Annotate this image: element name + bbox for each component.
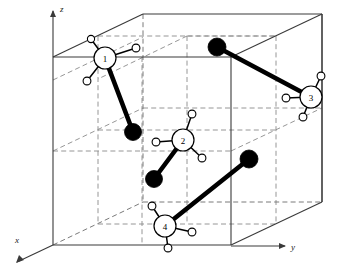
molecule-3-heavy-atom[interactable] bbox=[208, 38, 226, 56]
cell-edge-3 bbox=[231, 14, 322, 57]
molecule-4-label: 4 bbox=[163, 222, 168, 232]
molecule-2-hydrogen-1[interactable] bbox=[152, 138, 160, 146]
molecule-4-hydrogen-1[interactable] bbox=[188, 228, 196, 236]
molecule-2-label: 2 bbox=[181, 136, 186, 146]
z-axis-arrowhead bbox=[50, 10, 56, 17]
molecule-1-hydrogen-2[interactable] bbox=[83, 77, 91, 85]
y-axis-arrowhead bbox=[279, 243, 286, 249]
molecules: 1234 bbox=[83, 35, 325, 252]
x-axis-label: x bbox=[14, 235, 19, 245]
z-axis-label: z bbox=[59, 4, 64, 14]
x-axis-arrowhead bbox=[16, 255, 24, 263]
grid-line-9 bbox=[231, 108, 322, 151]
molecule-2[interactable]: 2 bbox=[146, 110, 206, 187]
molecule-3-label: 3 bbox=[309, 93, 314, 103]
molecule-3[interactable]: 3 bbox=[208, 38, 325, 121]
molecule-4-hydrogen-2[interactable] bbox=[164, 244, 172, 252]
unit-cell-scene: zyx 1234 bbox=[0, 0, 337, 274]
molecule-4-hydrogen-0[interactable] bbox=[148, 202, 156, 210]
molecule-4-heavy-atom[interactable] bbox=[240, 150, 258, 168]
cell-edge-8 bbox=[231, 202, 322, 245]
molecule-1-heavy-atom[interactable] bbox=[125, 124, 142, 141]
molecule-3-hydrogen-1[interactable] bbox=[282, 94, 290, 102]
molecule-3-hydrogen-0[interactable] bbox=[317, 72, 325, 80]
molecule-3-hydrogen-2[interactable] bbox=[299, 113, 307, 121]
molecule-1-hydrogen-0[interactable] bbox=[87, 35, 94, 42]
molecule-2-hydrogen-2[interactable] bbox=[198, 154, 206, 162]
crystal-structure-figure: zyx 1234 bbox=[0, 0, 337, 274]
molecule-2-heavy-atom[interactable] bbox=[146, 171, 163, 188]
molecule-1-label: 1 bbox=[103, 54, 108, 64]
molecule-1-hydrogen-1[interactable] bbox=[132, 44, 140, 52]
molecule-2-hydrogen-0[interactable] bbox=[188, 110, 196, 118]
molecule-1[interactable]: 1 bbox=[83, 35, 141, 140]
molecule-4-main-bond bbox=[165, 159, 249, 226]
y-axis-label: y bbox=[290, 242, 295, 252]
